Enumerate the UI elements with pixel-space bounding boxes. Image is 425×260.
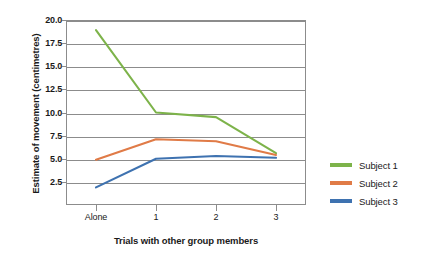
legend-color-swatch bbox=[330, 199, 352, 202]
series-line bbox=[96, 30, 276, 153]
x-tick-label: 3 bbox=[246, 212, 306, 222]
legend-item[interactable]: Subject 3 bbox=[330, 194, 422, 208]
x-tick-label: 2 bbox=[186, 212, 246, 222]
x-tick-label: 1 bbox=[126, 212, 186, 222]
x-tick-label: Alone bbox=[66, 212, 126, 222]
legend-item[interactable]: Subject 2 bbox=[330, 176, 422, 190]
legend-label: Subject 2 bbox=[359, 178, 398, 189]
x-axis-title: Trials with other group members bbox=[66, 235, 306, 246]
x-tick-mark bbox=[96, 205, 97, 211]
x-tick-mark bbox=[276, 205, 277, 211]
x-tick-mark bbox=[216, 205, 217, 211]
legend-color-swatch bbox=[330, 163, 352, 166]
x-tick-mark bbox=[156, 205, 157, 211]
legend-item[interactable]: Subject 1 bbox=[330, 158, 422, 172]
series-line bbox=[96, 156, 276, 187]
legend-color-swatch bbox=[330, 181, 352, 184]
legend: Subject 1Subject 2Subject 3 bbox=[330, 158, 422, 212]
legend-label: Subject 3 bbox=[359, 196, 398, 207]
line-chart: Estimate of movement (centimetres) 2.55.… bbox=[0, 0, 425, 260]
legend-label: Subject 1 bbox=[359, 160, 398, 171]
